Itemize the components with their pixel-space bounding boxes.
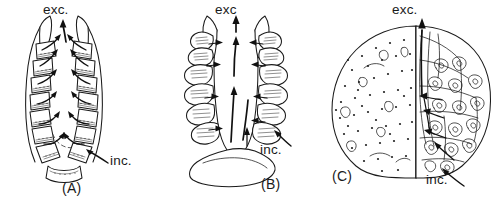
label-exc-c: exc.	[392, 2, 418, 17]
label-inc-c: inc.	[426, 172, 448, 187]
flow-arrow-excurrent	[231, 86, 238, 142]
flow-arrow-excurrent	[233, 36, 240, 76]
lamella-plate	[31, 75, 51, 93]
lamella-plate	[75, 58, 95, 76]
plicate-lamella	[260, 65, 288, 86]
label-exc-b: exc	[215, 2, 237, 17]
label-inc-b: inc.	[260, 142, 282, 157]
internal-view-half	[416, 26, 490, 178]
label-exc-a: exc.	[43, 2, 69, 17]
plicate-lamella	[259, 48, 284, 67]
plicate-lamella	[187, 103, 215, 125]
lamella-plate	[77, 75, 97, 93]
panel-a-drawing	[0, 0, 160, 201]
flow-arrow-excurrent	[60, 19, 67, 42]
plicate-lamella	[259, 84, 288, 106]
panel-label-c: (C)	[332, 168, 352, 184]
plicate-lamella	[188, 48, 213, 67]
panel-label-a: (A)	[62, 180, 82, 196]
flow-arrow-excurrent-main	[232, 15, 239, 32]
panel-b-drawing	[155, 0, 320, 201]
lamella-plate	[32, 126, 54, 144]
plicate-lamella	[185, 65, 213, 86]
plicate-lamella	[185, 84, 214, 106]
lamella-plate	[36, 143, 60, 163]
figure-root: exc. inc. (A)	[0, 0, 499, 201]
lamella-plate	[33, 58, 53, 76]
plicate-lamella	[191, 123, 219, 145]
surface-view-half	[332, 26, 416, 178]
panel-b: exc inc. (B)	[155, 0, 320, 201]
label-inc-a: inc.	[110, 153, 132, 168]
panel-label-b: (B)	[261, 176, 281, 192]
panel-c: exc. inc. (C)	[318, 0, 499, 201]
panel-a: exc. inc. (A)	[0, 0, 160, 201]
lamella-plate	[74, 126, 96, 144]
